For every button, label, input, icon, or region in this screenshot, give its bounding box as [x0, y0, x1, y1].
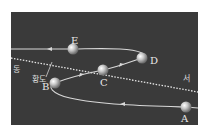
label-e: E	[71, 36, 78, 46]
label-a: A	[181, 114, 188, 124]
arrow-icon	[79, 73, 84, 77]
label-c: C	[100, 78, 108, 88]
planet-d	[137, 53, 148, 64]
east-label: 동	[13, 66, 20, 74]
planet-b	[50, 78, 61, 89]
ecliptic-label: 황도	[32, 76, 46, 84]
planet-a	[181, 102, 192, 113]
arrow-icon	[120, 102, 125, 106]
west-label: 서	[183, 75, 190, 83]
planet-c	[98, 65, 109, 76]
retrograde-diagram	[0, 0, 206, 135]
label-d: D	[150, 56, 158, 66]
arrow-icon	[47, 47, 52, 51]
